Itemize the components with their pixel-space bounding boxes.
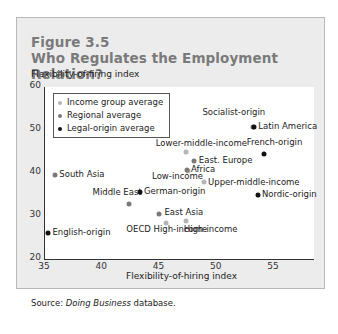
figure-number: Figure 3.5 <box>31 34 110 50</box>
data-point-label: French-origin <box>247 137 303 147</box>
data-point-label: German-origin <box>144 186 205 196</box>
y-tick-label: 60 <box>21 80 41 90</box>
data-point-label: Africa <box>191 164 215 174</box>
x-tick-label: 55 <box>263 261 283 271</box>
data-point <box>261 151 266 156</box>
data-point-label: South Asia <box>59 169 104 179</box>
data-point-label: High-income <box>184 224 238 234</box>
y-axis-label: Flexibility-of-firing index <box>31 69 139 79</box>
x-tick-label: 40 <box>91 261 111 271</box>
data-point <box>183 218 188 223</box>
data-point <box>126 201 131 206</box>
plot-area: Income group average Regional average Le… <box>44 87 314 260</box>
x-tick-label: 35 <box>34 261 54 271</box>
data-point <box>157 211 162 216</box>
legend: Income group average Regional average Le… <box>53 93 170 138</box>
data-point <box>252 124 257 129</box>
data-point <box>53 172 58 177</box>
legend-item-legal: Legal-origin average <box>58 122 163 135</box>
x-tick-label: 50 <box>206 261 226 271</box>
x-axis-label: Flexibility-of-hiring index <box>17 271 326 281</box>
legend-item-income: Income group average <box>58 96 163 109</box>
data-point <box>202 179 207 184</box>
data-point-label: Middle East <box>93 187 142 197</box>
data-point <box>255 192 260 197</box>
data-point <box>46 230 51 235</box>
data-point <box>138 189 143 194</box>
data-point <box>183 149 188 154</box>
regional-dot-icon <box>58 114 62 118</box>
data-point <box>184 167 189 172</box>
income-dot-icon <box>58 101 62 105</box>
y-tick-label: 30 <box>21 209 41 219</box>
x-tick-label: 45 <box>148 261 168 271</box>
legal-dot-icon <box>58 127 62 131</box>
figure-panel: Figure 3.5 Who Regulates the Employment … <box>16 17 325 289</box>
y-tick-label: 50 <box>21 123 41 133</box>
legend-item-regional: Regional average <box>58 109 163 122</box>
data-point-label: East Asia <box>164 207 203 217</box>
data-point-label: Nordic-origin <box>262 189 317 199</box>
data-point-label: Socialist-origin <box>202 107 265 117</box>
source-note: Source: Doing Business database. <box>31 298 176 308</box>
data-point-label: English-origin <box>52 227 110 237</box>
y-tick-label: 40 <box>21 166 41 176</box>
data-point-label: Upper-middle-income <box>208 177 299 187</box>
data-point-label: Lower-middle-income <box>156 138 247 148</box>
data-point-label: Latin America <box>258 121 317 131</box>
